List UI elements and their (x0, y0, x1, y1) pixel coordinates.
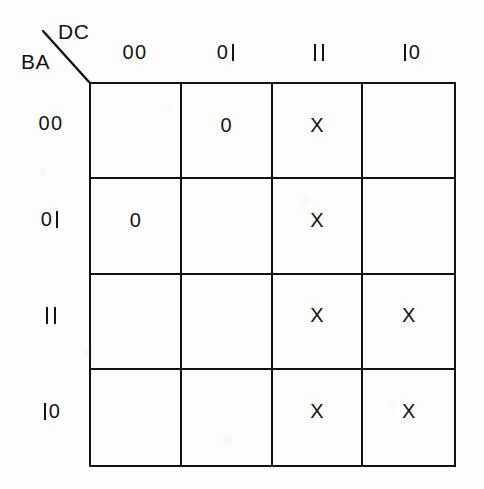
kmap-cell-value: X (310, 305, 323, 325)
digit-one-glyph (54, 307, 56, 324)
column-header-1: 0 (181, 40, 273, 64)
digit-one-glyph (404, 44, 406, 61)
column-header-0: 00 (89, 40, 181, 64)
kmap-cell-r00-c10[interactable] (363, 84, 454, 179)
kmap-cell-r11-c10[interactable]: X (363, 275, 454, 370)
kmap-cell-value: 0 (221, 115, 232, 135)
kmap-cell-r10-c11[interactable]: X (273, 370, 364, 465)
kmap-cell-value: 0 (130, 210, 141, 230)
kmap-cell-r10-c01[interactable] (182, 370, 273, 465)
axis-diagonal-line (0, 0, 100, 90)
column-axis-label: DC (58, 21, 89, 42)
kmap-cell-r01-c11[interactable]: X (273, 179, 364, 274)
digit-one-glyph (46, 307, 48, 324)
digit-one-glyph (232, 44, 234, 61)
karnaugh-map-figure: DC BA 00 0 0 00 0 0 0X0XXXXX (0, 0, 484, 489)
kmap-cell-r00-c01[interactable]: 0 (182, 84, 273, 179)
axis-header: DC BA (0, 0, 100, 84)
kmap-cell-value: X (310, 401, 323, 421)
kmap-cell-r11-c01[interactable] (182, 275, 273, 370)
kmap-grid: 0X0XXXXX (89, 82, 456, 467)
digit-one-glyph (44, 403, 46, 420)
kmap-cell-value: X (310, 115, 323, 135)
kmap-cell-r11-c11[interactable]: X (273, 275, 364, 370)
kmap-cell-value: X (402, 401, 415, 421)
row-header-1: 0 (23, 207, 79, 231)
kmap-cell-r00-c00[interactable] (91, 84, 182, 179)
kmap-cell-value: X (402, 305, 415, 325)
digit-one-glyph (322, 44, 324, 61)
kmap-cell-r11-c00[interactable] (91, 275, 182, 370)
kmap-cell-r10-c00[interactable] (91, 370, 182, 465)
digit-one-glyph (314, 44, 316, 61)
kmap-cell-r01-c01[interactable] (182, 179, 273, 274)
row-header-0: 00 (23, 111, 79, 135)
kmap-cell-r01-c10[interactable] (363, 179, 454, 274)
kmap-cell-r10-c10[interactable]: X (363, 370, 454, 465)
kmap-cell-r00-c11[interactable]: X (273, 84, 364, 179)
kmap-cell-r01-c00[interactable]: 0 (91, 179, 182, 274)
row-axis-label: BA (21, 51, 50, 72)
column-header-2 (273, 40, 365, 64)
column-header-3: 0 (365, 40, 457, 64)
row-header-2 (23, 303, 79, 327)
kmap-cell-value: X (310, 210, 323, 230)
digit-one-glyph (56, 211, 58, 228)
row-header-3: 0 (23, 399, 79, 423)
